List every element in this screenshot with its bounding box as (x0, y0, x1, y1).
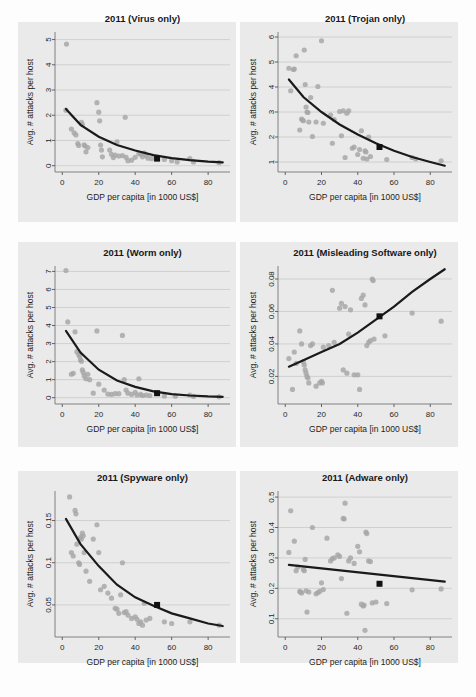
data-point (71, 553, 76, 558)
chart-svg: 2011 (Worm only)01234567Avg. # attacks p… (0, 232, 238, 455)
data-point (320, 380, 325, 385)
data-point (310, 134, 315, 139)
data-point (290, 387, 295, 392)
data-point (96, 110, 101, 115)
data-point (94, 328, 99, 333)
data-point (384, 157, 389, 162)
data-point (136, 376, 141, 381)
data-point (306, 119, 311, 124)
x-tick-label: 0 (60, 643, 65, 652)
panel-title: 2011 (Trojan only) (325, 13, 405, 24)
data-point (303, 82, 308, 87)
panel-title: 2011 (Misleading Software only) (293, 247, 437, 258)
chart-svg: 2011 (Adware only)0.10.20.30.40.5Avg. # … (238, 455, 476, 697)
data-point (72, 329, 77, 334)
data-point (99, 147, 104, 152)
data-point (286, 550, 291, 555)
data-point (149, 156, 154, 161)
x-tick-label: 60 (167, 410, 176, 419)
highlight-marker (154, 156, 160, 162)
data-point (67, 494, 72, 499)
data-point (294, 53, 299, 58)
data-point (357, 147, 362, 152)
data-point (292, 539, 297, 544)
y-tick-label: 0.15 (44, 512, 53, 528)
y-tick-label: 0.4 (267, 521, 276, 533)
fit-curve (66, 331, 223, 397)
data-point (348, 307, 353, 312)
data-point (337, 554, 342, 559)
data-point (342, 516, 347, 521)
y-tick-label: 0.02 (267, 368, 276, 384)
data-point (306, 589, 311, 594)
data-point (71, 371, 76, 376)
data-point (342, 501, 347, 506)
data-point (109, 596, 114, 601)
data-point (297, 127, 302, 132)
data-point (371, 278, 376, 283)
data-point (384, 601, 389, 606)
x-tick-label: 60 (167, 643, 176, 652)
chart-svg: 2011 (Trojan only)123456Avg. # attacks p… (238, 0, 476, 232)
data-point (94, 522, 99, 527)
y-tick-label: 0.04 (267, 336, 276, 352)
y-tick-label: 1 (44, 138, 53, 143)
data-point (319, 580, 324, 585)
data-point (302, 362, 307, 367)
data-point (410, 310, 415, 315)
data-point (305, 110, 310, 115)
x-tick-label: 80 (426, 643, 435, 652)
x-tick-label: 0 (283, 178, 288, 187)
data-point (297, 328, 302, 333)
x-tick-label: 80 (426, 410, 435, 419)
data-point (79, 359, 84, 364)
data-point (362, 628, 367, 633)
data-point (85, 372, 90, 377)
data-point (65, 319, 70, 324)
data-point (342, 155, 347, 160)
x-tick-label: 0 (60, 178, 65, 187)
y-tick-label: 0.1 (44, 557, 53, 569)
data-point (96, 382, 101, 387)
data-point (81, 533, 86, 538)
y-axis-title: Avg. # attacks per host (248, 58, 258, 145)
y-tick-label: 4 (267, 84, 276, 89)
data-point (91, 537, 96, 542)
y-tick-label: 2 (267, 134, 276, 139)
data-point (339, 576, 344, 581)
data-point (85, 145, 90, 150)
data-point (87, 377, 92, 382)
data-point (102, 584, 107, 589)
panel-trojan-only: 2011 (Trojan only)123456Avg. # attacks p… (238, 0, 476, 232)
data-point (362, 302, 367, 307)
fit-curve (289, 269, 445, 366)
y-tick-label: 3 (44, 341, 53, 346)
data-point (304, 609, 309, 614)
highlight-marker (377, 581, 383, 587)
x-tick-label: 40 (131, 643, 140, 652)
data-point (286, 356, 291, 361)
data-point (352, 561, 357, 566)
y-axis-title: Avg. # attacks per host (25, 58, 35, 145)
x-tick-label: 20 (94, 178, 103, 187)
x-axis-title: GDP per capita [in 1000 US$] (309, 657, 421, 667)
y-tick-label: 3 (44, 87, 53, 92)
data-point (346, 108, 351, 113)
data-point (305, 375, 310, 380)
y-tick-label: 5 (44, 305, 53, 310)
x-tick-label: 60 (390, 643, 399, 652)
x-tick-label: 40 (131, 178, 140, 187)
data-point (77, 562, 82, 567)
data-point (147, 393, 152, 398)
data-point (301, 118, 306, 123)
data-point (302, 47, 307, 52)
highlight-marker (154, 602, 160, 608)
x-tick-label: 40 (353, 643, 362, 652)
y-axis-title: Avg. # attacks per host (25, 520, 35, 607)
panel-misleading-software-only: 2011 (Misleading Software only)0.020.040… (238, 232, 476, 455)
data-point (76, 143, 81, 148)
data-point (337, 306, 342, 311)
y-tick-label: 0.5 (267, 491, 276, 503)
data-point (342, 304, 347, 309)
data-point (169, 621, 174, 626)
